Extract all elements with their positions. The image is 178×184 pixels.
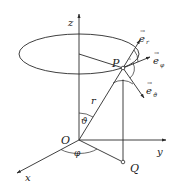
y-axis-label: y xyxy=(156,146,163,157)
origin-label: O xyxy=(61,134,70,147)
phi-label: φ xyxy=(74,148,81,158)
radius-label: r xyxy=(91,95,97,106)
spherical-coordinates-diagram: z y x O P Q r ϑ φ → e r → e φ → e ϑ xyxy=(0,0,178,184)
svg-text:ϑ: ϑ xyxy=(153,91,158,98)
radius-line-r xyxy=(79,68,123,140)
point-P xyxy=(121,66,125,70)
svg-text:r: r xyxy=(146,38,150,45)
e-theta-label: → e ϑ xyxy=(146,79,158,98)
x-axis-label: x xyxy=(25,172,31,183)
arc-dot-lower xyxy=(122,79,123,80)
theta-label: ϑ xyxy=(81,116,88,126)
arc-dot-upper xyxy=(129,58,130,59)
point-Q xyxy=(121,160,125,164)
svg-text:e: e xyxy=(153,55,159,66)
z-axis-label: z xyxy=(67,17,74,28)
svg-text:e: e xyxy=(139,33,145,44)
svg-text:φ: φ xyxy=(160,61,165,69)
e-r-label: → e r xyxy=(139,27,150,45)
e-phi-vector xyxy=(123,57,150,68)
point-Q-label: Q xyxy=(130,162,139,175)
point-P-label: P xyxy=(111,57,120,70)
projection-line-OQ xyxy=(79,140,121,161)
svg-text:e: e xyxy=(146,85,152,96)
e-phi-label: → e φ xyxy=(153,49,165,69)
